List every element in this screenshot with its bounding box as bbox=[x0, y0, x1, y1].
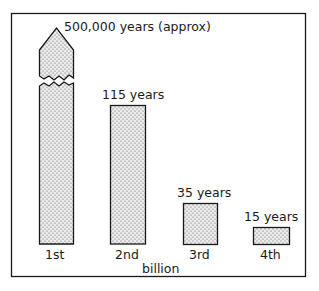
bar-2nd bbox=[111, 106, 146, 245]
bar-3rd bbox=[184, 204, 218, 245]
bar-3rd-value-label: 35 years bbox=[177, 185, 231, 200]
x-axis-label: billion bbox=[142, 261, 179, 276]
category-label-4th: 4th bbox=[260, 247, 281, 262]
chart-figure: 500,000 years (approx) 115 years 35 year… bbox=[0, 0, 319, 291]
bar-4th bbox=[254, 228, 290, 245]
bar-1st bbox=[40, 28, 74, 244]
bar-1st-top-arrow bbox=[40, 28, 74, 80]
category-label-2nd: 2nd bbox=[115, 247, 139, 262]
category-label-1st: 1st bbox=[45, 247, 64, 262]
bar-1st-lower-segment bbox=[40, 82, 74, 244]
bar-1st-value-label: 500,000 years (approx) bbox=[64, 19, 211, 34]
category-label-3rd: 3rd bbox=[189, 247, 210, 262]
bar-4th-value-label: 15 years bbox=[244, 209, 298, 224]
bar-2nd-value-label: 115 years bbox=[102, 87, 164, 102]
